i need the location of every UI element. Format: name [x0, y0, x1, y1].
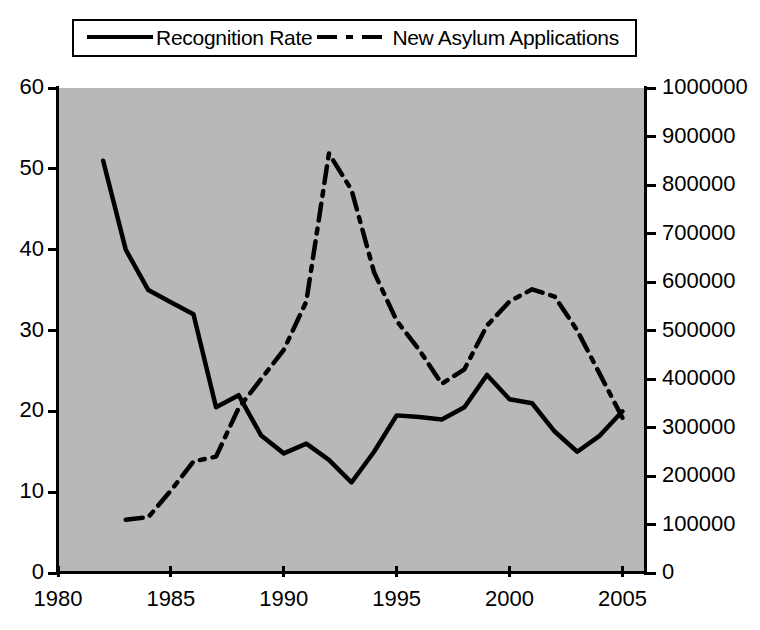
- y-axis-right-tick: [645, 281, 656, 284]
- y-axis-right-tick-label: 900000: [662, 123, 735, 149]
- x-axis-tick-label: 1990: [234, 586, 334, 612]
- x-axis-tick-label: 1995: [347, 586, 447, 612]
- y-axis-left-tick: [48, 167, 59, 170]
- y-axis-left-tick: [48, 410, 59, 413]
- y-axis-right-tick-label: 0: [662, 559, 674, 585]
- x-axis-tick: [395, 566, 398, 577]
- x-axis-tick-label: 1985: [121, 586, 221, 612]
- x-axis-tick-label: 2005: [572, 586, 672, 612]
- x-axis-tick: [57, 566, 60, 577]
- y-axis-right-tick: [645, 523, 656, 526]
- y-axis-left-tick-label: 20: [0, 397, 44, 423]
- dash-dot-line-icon: [316, 29, 390, 47]
- y-axis-left-tick: [48, 329, 59, 332]
- y-axis-right-tick: [645, 475, 656, 478]
- y-axis-right-tick-label: 700000: [662, 220, 735, 246]
- x-axis-tick-label: 1980: [8, 586, 108, 612]
- y-axis-left-tick-label: 0: [0, 559, 44, 585]
- series-overlay: [58, 88, 645, 573]
- series-line-recognition-rate: [103, 161, 622, 483]
- legend-label-recognition-rate: Recognition Rate: [154, 26, 316, 50]
- y-axis-right-tick: [645, 572, 656, 575]
- y-axis-right-tick: [645, 87, 656, 90]
- y-axis-left-tick: [48, 491, 59, 494]
- chart-legend: Recognition Rate New Asylum Applications: [72, 19, 637, 57]
- y-axis-left-tick: [48, 87, 59, 90]
- y-axis-right-tick: [645, 378, 656, 381]
- y-axis-left-tick-label: 40: [0, 236, 44, 262]
- y-axis-right-tick: [645, 184, 656, 187]
- y-axis-right-tick-label: 100000: [662, 511, 735, 537]
- y-axis-right-tick-label: 200000: [662, 462, 735, 488]
- x-axis-tick: [282, 566, 285, 577]
- y-axis-right-tick-label: 400000: [662, 365, 735, 391]
- y-axis-right-tick: [645, 232, 656, 235]
- y-axis-left-tick-label: 10: [0, 478, 44, 504]
- y-axis-right-tick: [645, 329, 656, 332]
- y-axis-right-tick: [645, 135, 656, 138]
- y-axis-left-tick-label: 50: [0, 155, 44, 181]
- legend-label-new-asylum-applications: New Asylum Applications: [390, 26, 623, 50]
- y-axis-right-tick: [645, 426, 656, 429]
- x-axis-tick: [508, 566, 511, 577]
- y-axis-left-tick: [48, 248, 59, 251]
- x-axis-tick: [621, 566, 624, 577]
- solid-line-icon: [86, 29, 154, 47]
- legend-entry-new-asylum-applications: New Asylum Applications: [316, 26, 623, 50]
- x-axis-tick: [169, 566, 172, 577]
- x-axis-tick-label: 2000: [460, 586, 560, 612]
- y-axis-right-tick-label: 800000: [662, 171, 735, 197]
- y-axis-right-tick-label: 300000: [662, 414, 735, 440]
- y-axis-right-tick-label: 600000: [662, 268, 735, 294]
- legend-entry-recognition-rate: Recognition Rate: [86, 26, 316, 50]
- y-axis-left-tick-label: 60: [0, 74, 44, 100]
- plot-area: [58, 88, 645, 573]
- x-axis-line: [56, 571, 647, 574]
- y-axis-left-tick-label: 30: [0, 317, 44, 343]
- y-axis-right-tick-label: 500000: [662, 317, 735, 343]
- y-axis-right-tick-label: 1000000: [662, 74, 748, 100]
